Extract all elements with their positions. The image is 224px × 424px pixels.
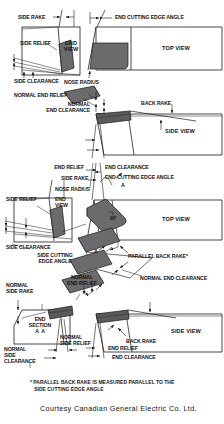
label-normal-end-clearance-1: NORMAL END CLEARANCE — [14, 101, 90, 113]
panel-top-view-1: TOP VIEW — [150, 45, 202, 51]
credit-line: Courtesy Canadian General Electric Co. L… — [40, 404, 197, 413]
panel-top-view-2: TOP VIEW — [150, 216, 202, 222]
panel-end-view-2: END VIEW — [55, 196, 68, 208]
panel-end-view-1: END VIEW — [60, 40, 82, 52]
label-nose-radius-2: NOSE RADIUS — [55, 186, 90, 192]
panel-end-section: END SECTION A A — [22, 316, 58, 334]
label-end-clearance-3: END CLEARANCE — [112, 354, 156, 360]
label-side-relief-2: SIDE RELIEF — [6, 196, 37, 202]
label-end-clearance-2: END CLEARANCE — [105, 164, 149, 170]
label-end-relief-2: END RELIEF — [34, 164, 84, 170]
label-normal-end-clearance-2: NORMAL END CLEARANCE — [140, 275, 207, 281]
label-section-arrow-a-top: A — [121, 182, 125, 188]
footnote: * PARALLEL BACK RAKE IS MEASURED PARALLE… — [30, 379, 174, 392]
label-end-cutting-edge-angle-1: END CUTTING EDGE ANGLE — [115, 14, 184, 20]
label-end-relief-3: END RELIEF — [108, 345, 138, 351]
label-side-clearance-2: SIDE CLEARANCE — [6, 244, 51, 250]
label-back-rake-2: BACK RAKE — [126, 338, 156, 344]
label-section-arrow-a-bottom: A — [94, 248, 98, 254]
panel-side-view-2: SIDE VIEW — [166, 328, 206, 334]
label-normal-side-relief: NORMAL SIDE RELIEF — [60, 334, 91, 346]
label-side-clearance-1: SIDE CLEARANCE — [14, 78, 59, 84]
label-normal-end-relief-2: NORMAL END RELIEF — [58, 274, 106, 286]
label-normal-side-rake: NORMAL SIDE RAKE — [6, 282, 33, 294]
label-parallel-back-rake: PARALLEL BACK RAKE* — [128, 253, 188, 259]
panel-side-view-1: SIDE VIEW — [160, 128, 200, 134]
label-back-rake-1: BACK RAKE — [141, 100, 171, 106]
label-side-rake-1: SIDE RAKE — [18, 14, 45, 20]
label-nose-radius-1: NOSE RADIUS — [64, 79, 99, 85]
label-end-cutting-edge-angle-2: END CUTTING EDGE ANGLE — [105, 174, 174, 180]
label-side-rake-2: SIDE RAKE — [61, 175, 88, 181]
label-normal-end-relief-1: NORMAL END RELIEF — [14, 92, 67, 98]
label-side-cutting-edge-angle: SIDE CUTTING EDGE ANGLE — [24, 252, 86, 264]
label-normal-side-clearance: NORMAL SIDE CLEARANCE — [4, 346, 36, 364]
label-angle-90: 90° — [110, 216, 117, 222]
cutting-tool-geometry-figure: SIDE RAKE SIDE RELIEF SIDE CLEARANCE END… — [0, 0, 224, 424]
label-side-relief-1: SIDE RELIEF — [20, 40, 51, 46]
